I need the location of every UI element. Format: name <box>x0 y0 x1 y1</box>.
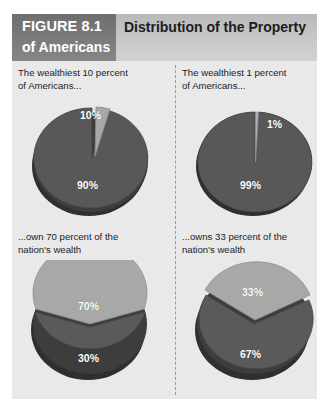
pie-chart-top-left: 10% 90% <box>18 96 168 222</box>
quadrant-caption: The wealthiest 10 percent of Americans..… <box>18 67 168 94</box>
pie-chart-svg <box>18 260 168 386</box>
figure-title-line-1: Distribution of the Property <box>124 19 306 35</box>
figure-title-line-2: of Americans <box>22 39 110 55</box>
quadrant-bottom-right: ...owns 33 percent of the nation's wealt… <box>182 231 329 386</box>
figure-container: FIGURE 8.1 Distribution of the Property … <box>0 0 329 413</box>
pie-chart-bottom-left: 70% 30% <box>18 260 168 386</box>
figure-body-panel: The wealthiest 10 percent of Americans..… <box>12 61 317 399</box>
pie-chart-svg <box>182 260 329 386</box>
pie-slice-label: 67% <box>240 348 261 360</box>
quadrant-top-left: The wealthiest 10 percent of Americans..… <box>18 67 168 222</box>
figure-number-label: FIGURE 8.1 <box>22 18 102 34</box>
pie-slice-label: 70% <box>78 300 99 312</box>
pie-slice-label: 1% <box>267 118 282 130</box>
figure-header-band: FIGURE 8.1 Distribution of the Property … <box>12 14 317 61</box>
pie-slice-label: 33% <box>242 286 263 298</box>
vertical-dashed-divider <box>175 65 176 395</box>
pie-chart-svg <box>182 96 329 222</box>
quadrant-caption: ...owns 33 percent of the nation's wealt… <box>182 231 329 258</box>
quadrant-caption: The wealthiest 1 percent of Americans... <box>182 67 329 94</box>
pie-slice-label: 99% <box>240 179 261 191</box>
quadrant-bottom-left: ...own 70 percent of the nation's wealth… <box>18 231 168 386</box>
pie-slice-label: 90% <box>77 179 98 191</box>
quadrant-top-right: The wealthiest 1 percent of Americans...… <box>182 67 329 222</box>
pie-slice-label: 30% <box>78 352 99 364</box>
quadrant-caption: ...own 70 percent of the nation's wealth <box>18 231 168 258</box>
pie-chart-bottom-right: 33% 67% <box>182 260 329 386</box>
pie-chart-top-right: 1% 99% <box>182 96 329 222</box>
pie-slice-label: 10% <box>80 109 101 121</box>
